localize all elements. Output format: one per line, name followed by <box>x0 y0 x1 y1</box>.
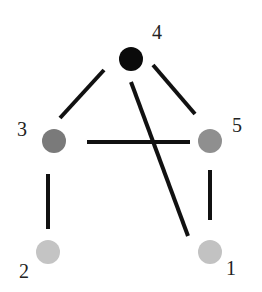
node-1 <box>198 240 222 264</box>
node-3 <box>42 129 66 153</box>
node-label-2: 2 <box>19 260 29 282</box>
graph-diagram: 4 3 5 2 1 <box>0 0 262 292</box>
node-label-4: 4 <box>152 21 162 43</box>
node-label-1: 1 <box>226 257 236 279</box>
node-5 <box>198 129 222 153</box>
edge-4-3 <box>60 70 104 118</box>
node-2 <box>36 240 60 264</box>
node-label-5: 5 <box>232 114 242 136</box>
edge-4-1 <box>131 82 188 236</box>
node-label-3: 3 <box>17 118 27 140</box>
node-4 <box>119 47 143 71</box>
edge-4-5 <box>153 65 195 114</box>
